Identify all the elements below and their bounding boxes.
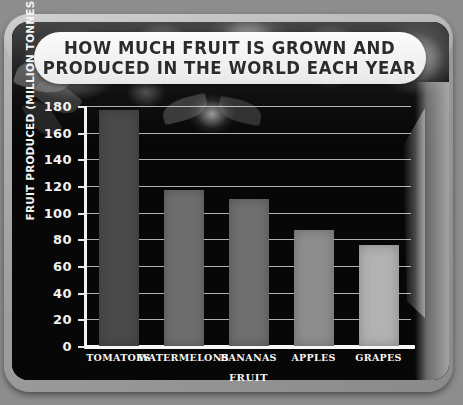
plot-area: 020406080100120140160180 TOMATOESWATERME…	[86, 106, 411, 346]
x-tick-label: BANANAS	[220, 352, 276, 363]
y-tick-label: 100	[44, 205, 72, 220]
y-tick-label: 120	[44, 179, 72, 194]
y-tick-label: 180	[44, 99, 72, 114]
infographic-chart-page: HOW MUCH FRUIT IS GROWN AND PRODUCED IN …	[0, 0, 463, 405]
bar-apples	[294, 230, 334, 346]
y-tick-label: 80	[53, 232, 72, 247]
bar-watermelons	[164, 190, 204, 346]
bar-tomatoes	[99, 110, 139, 346]
title-banner: HOW MUCH FRUIT IS GROWN AND PRODUCED IN …	[34, 32, 426, 84]
y-tick-label: 40	[53, 285, 72, 300]
x-axis-title: FRUIT	[86, 372, 411, 383]
y-tick-mark	[78, 159, 85, 161]
y-tick-mark	[78, 266, 85, 268]
y-tick-label: 140	[44, 152, 72, 167]
y-tick-mark	[78, 133, 85, 135]
y-axis-title-wrapper: FRUIT PRODUCED (MILLION TONNES)	[30, 110, 46, 350]
y-axis-title: FRUIT PRODUCED (MILLION TONNES)	[24, 0, 36, 228]
bar-bananas	[229, 199, 269, 346]
y-tick-mark	[78, 239, 85, 241]
x-tick-label: WATERMELONS	[138, 352, 229, 363]
y-tick-label: 60	[53, 259, 72, 274]
y-tick-label: 20	[53, 312, 72, 327]
y-tick-mark	[78, 319, 85, 321]
y-tick-mark	[78, 213, 85, 215]
bar-series	[86, 106, 411, 346]
x-tick-label: GRAPES	[355, 352, 401, 363]
y-tick-mark	[78, 106, 85, 108]
y-tick-label: 160	[44, 125, 72, 140]
bar-grapes	[359, 245, 399, 346]
y-tick-mark	[78, 346, 85, 348]
chart-title: HOW MUCH FRUIT IS GROWN AND PRODUCED IN …	[43, 38, 417, 78]
x-tick-label: APPLES	[291, 352, 335, 363]
y-tick-label: 0	[63, 339, 72, 354]
y-tick-mark	[78, 186, 85, 188]
y-tick-mark	[78, 293, 85, 295]
